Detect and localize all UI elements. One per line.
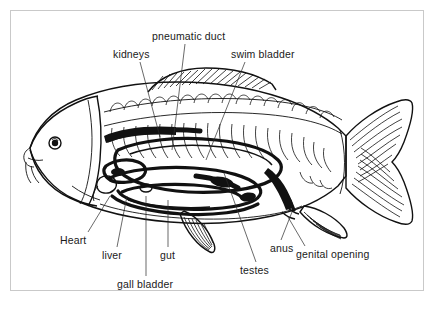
figure-root: pneumatic duct kidneys swim bladder Hear… (0, 0, 444, 317)
dorsal-fin (148, 68, 276, 92)
eye (49, 137, 61, 149)
fish-anatomy-illustration (0, 0, 444, 317)
label-gall-bladder: gall bladder (117, 278, 173, 290)
label-genital-opening: genital opening (296, 248, 369, 260)
pelvic-fin (180, 211, 215, 253)
label-anus: anus (270, 242, 293, 254)
label-pneumatic-duct: pneumatic duct (152, 30, 225, 42)
label-testes: testes (240, 264, 269, 276)
caudal-fin (340, 100, 413, 224)
body-outline (30, 82, 346, 223)
label-liver: liver (102, 249, 122, 261)
head (24, 96, 101, 206)
label-kidneys: kidneys (113, 48, 150, 60)
label-gut: gut (160, 249, 175, 261)
heart-leader (88, 196, 110, 232)
anal-fin (300, 206, 347, 239)
vent-region (264, 168, 299, 219)
label-swim-bladder: swim bladder (231, 48, 295, 60)
label-heart: Heart (60, 234, 86, 246)
